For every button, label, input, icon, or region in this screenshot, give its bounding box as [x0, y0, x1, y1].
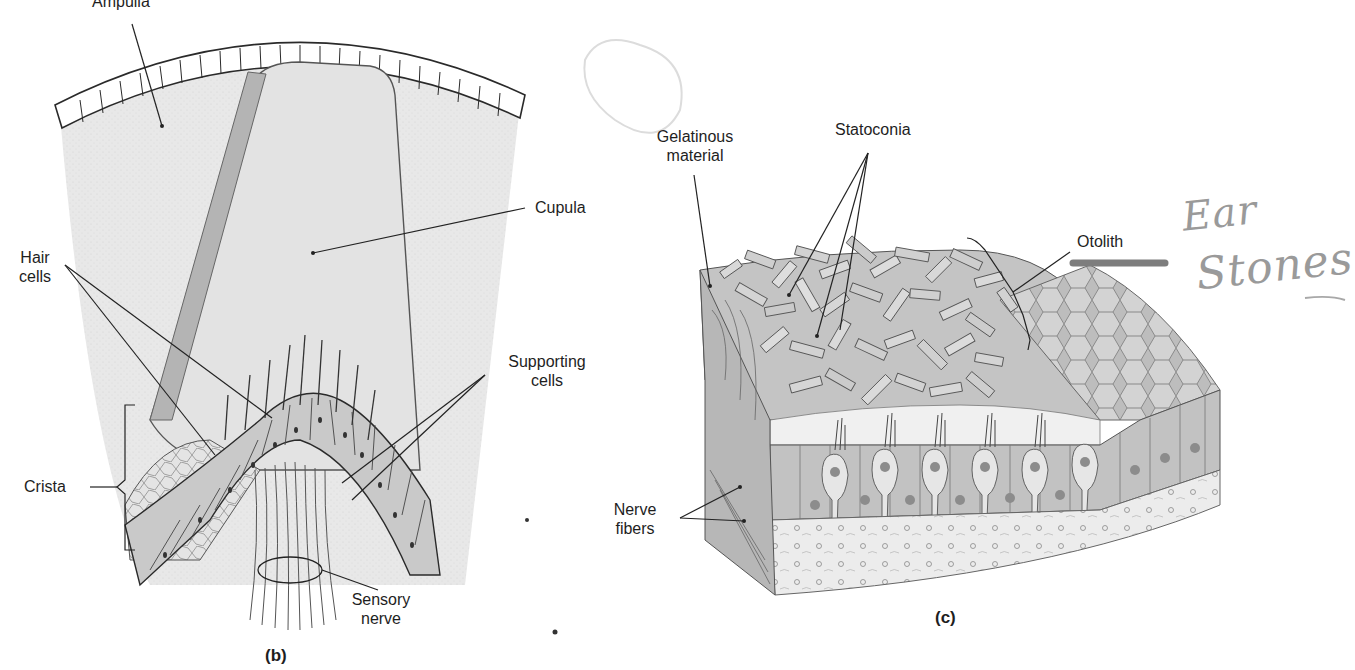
label-gelatinous-line1: Gelatinous [640, 127, 750, 146]
panel-label-c: (c) [935, 608, 956, 628]
label-supporting-cells-line1: Supporting [492, 352, 602, 371]
label-supporting-cells-line2: cells [492, 371, 602, 390]
label-hair-cells: Hair cells [8, 248, 62, 286]
label-otolith: Otolith [1077, 232, 1123, 251]
label-cupula: Cupula [535, 198, 586, 217]
label-gelatinous-material: Gelatinous material [640, 127, 750, 165]
label-hair-cells-line2: cells [8, 267, 62, 286]
pencil-loop [584, 40, 681, 133]
label-sensory-nerve: Sensory nerve [340, 590, 422, 628]
label-nerve-fibers: Nerve fibers [605, 500, 665, 538]
label-ampulla: Ampulla [92, 0, 150, 11]
label-crista: Crista [24, 477, 66, 496]
label-supporting-cells: Supporting cells [492, 352, 602, 390]
label-hair-cells-line1: Hair [8, 248, 62, 267]
handwritten-ear: Ear [1180, 186, 1260, 240]
pencil-swoosh [1305, 297, 1345, 300]
label-sensory-nerve-line2: nerve [340, 609, 422, 628]
label-nerve-fibers-line1: Nerve [605, 500, 665, 519]
panel-b-drawing [55, 24, 525, 630]
label-sensory-nerve-line1: Sensory [340, 590, 422, 609]
panel-label-b: (b) [265, 646, 287, 666]
label-nerve-fibers-line2: fibers [605, 519, 665, 538]
label-statoconia: Statoconia [835, 120, 911, 139]
label-gelatinous-line2: material [640, 146, 750, 165]
